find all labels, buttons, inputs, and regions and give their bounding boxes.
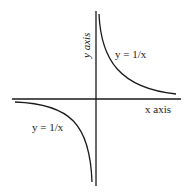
curve-label-upper: y = 1/x xyxy=(115,48,147,60)
curve-lower-left-branch xyxy=(15,102,92,182)
hyperbola-figure: y axis x axis y = 1/x y = 1/x xyxy=(0,0,187,193)
y-axis-label: y axis xyxy=(80,33,92,59)
curve-label-lower: y = 1/x xyxy=(32,121,64,133)
x-axis-label: x axis xyxy=(145,103,171,115)
